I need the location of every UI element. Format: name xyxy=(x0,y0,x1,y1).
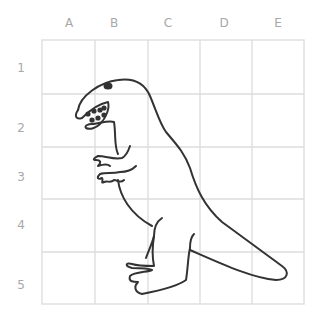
grid-and-drawing xyxy=(0,0,320,321)
grid-lines xyxy=(42,40,304,304)
dinosaur-outline xyxy=(76,80,287,294)
